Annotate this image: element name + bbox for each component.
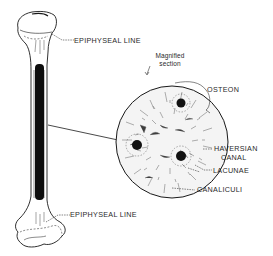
- label-canal: CANAL: [221, 154, 246, 161]
- medullary-cavity: [35, 64, 44, 200]
- label-magnified: Magnified: [150, 53, 190, 60]
- magnification-connector: [48, 125, 118, 140]
- label-osteon: OSTEON: [207, 86, 239, 93]
- label-epiphyseal-line-bottom: EPIPHYSEAL LINE: [70, 211, 137, 218]
- label-haversian: HAVERSIAN: [214, 145, 258, 152]
- label-canaliculi: CANALICULI: [197, 186, 242, 193]
- bone-structure-diagram: EPIPHYSEAL LINE EPIPHYSEAL LINE Magnifie…: [0, 0, 273, 256]
- magnified-section: [116, 86, 228, 198]
- label-section: section: [150, 61, 190, 68]
- label-epiphyseal-line-top: EPIPHYSEAL LINE: [74, 37, 141, 44]
- label-lacunae: LACUNAE: [213, 167, 249, 174]
